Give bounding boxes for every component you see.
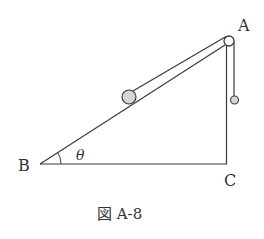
pulley-icon [224,36,234,46]
label-a: A [237,16,250,35]
label-theta: θ [76,147,85,163]
ball-on-incline [122,90,136,104]
label-b: B [18,156,30,175]
figure-caption: 図 A-8 [97,205,142,223]
hanging-ball [231,96,239,104]
incline-pulley-diagram: A B C θ 図 A-8 [0,0,264,239]
angle-arc [58,153,61,164]
string-incline [133,37,226,92]
incline-line-ba [40,45,225,164]
label-c: C [224,171,236,190]
